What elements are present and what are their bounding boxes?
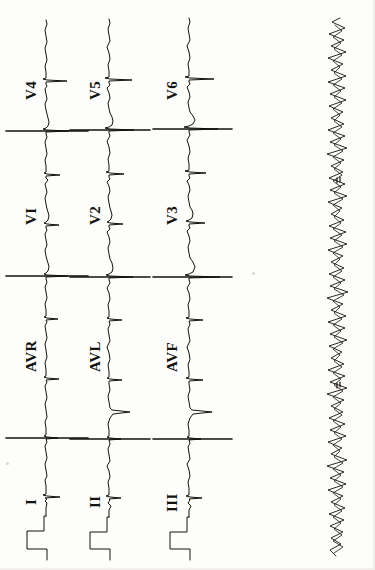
scan-speck [252, 272, 255, 275]
lead-label-VI: VI [24, 208, 39, 225]
rhythm-strip-trace [327, 18, 348, 556]
lead-label-I: I [24, 499, 39, 505]
scan-speck [6, 462, 9, 465]
lead-label-V4: V4 [24, 81, 39, 100]
lead-label-III: III [165, 493, 180, 512]
calibration-pulse-row-2 [90, 517, 110, 560]
ecg-trace-row-1 [43, 20, 69, 516]
lead-label-V3: V3 [165, 206, 180, 225]
calibration-pulse-row-1 [27, 516, 47, 560]
ink-speck-upper [337, 177, 340, 183]
lead-row-1 [6, 20, 88, 560]
calibration-pulse-row-3 [170, 517, 190, 560]
ecg-traces [0, 0, 375, 570]
lead-label-AVF: AVF [165, 342, 180, 372]
lead-label-II: II [88, 496, 103, 508]
ecg-page: I AVR VI V4 II AVL V2 V5 III AVF V3 V6 [0, 0, 375, 570]
lead-label-V5: V5 [88, 81, 103, 100]
lead-label-AVL: AVL [88, 341, 103, 372]
lead-label-V2: V2 [88, 206, 103, 225]
lead-row-2 [70, 19, 150, 560]
ecg-trace-row-3 [184, 18, 220, 517]
lead-label-AVR: AVR [24, 340, 39, 372]
ecg-trace-row-2 [105, 19, 134, 517]
lead-label-V6: V6 [165, 81, 180, 100]
